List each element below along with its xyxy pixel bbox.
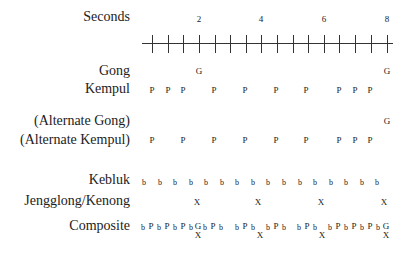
kebluk-stroke-b: b xyxy=(251,178,255,188)
kempul-stroke-P: P xyxy=(165,85,170,95)
composite-stroke: P xyxy=(335,221,340,231)
gong-stroke-G: G xyxy=(196,66,203,76)
axis-tick xyxy=(355,35,356,53)
kebluk-stroke-b: b xyxy=(266,178,270,188)
kempul-stroke-P: P xyxy=(336,85,341,95)
kebluk-stroke-b: b xyxy=(173,178,177,188)
seconds-label: Seconds xyxy=(83,9,130,25)
kempul-stroke-P: P xyxy=(180,85,185,95)
composite-stroke: b xyxy=(313,223,317,233)
alt_kempul-stroke-P: P xyxy=(242,135,247,145)
composite-stroke: b xyxy=(344,223,348,233)
composite-stroke: P xyxy=(351,221,356,231)
alt_kempul-stroke-P: P xyxy=(303,135,308,145)
composite-stroke: b xyxy=(360,223,364,233)
kebluk-stroke-b: b xyxy=(375,178,379,188)
kebluk-stroke-b: b xyxy=(298,178,302,188)
composite-stroke: P xyxy=(367,221,372,231)
kebluk-stroke-b: b xyxy=(142,178,146,188)
axis-tick xyxy=(371,35,372,53)
jengglong-stroke-X: X xyxy=(381,197,388,207)
kempul-stroke-P: P xyxy=(273,85,278,95)
composite-stroke: b xyxy=(157,223,161,233)
axis-tick xyxy=(152,35,153,53)
kebluk-stroke-b: b xyxy=(329,178,333,188)
axis-tick xyxy=(183,35,184,53)
kempul-stroke-P: P xyxy=(211,85,216,95)
kebluk-label: Kebluk xyxy=(89,172,130,188)
composite-label: Composite xyxy=(69,218,130,234)
composite-stroke: X xyxy=(195,230,202,240)
composite-stroke: X xyxy=(257,230,264,240)
seconds-tick-label: 6 xyxy=(322,14,327,24)
kebluk-stroke-b: b xyxy=(158,178,162,188)
composite-stroke: X xyxy=(383,230,390,240)
kempul-stroke-P: P xyxy=(352,85,357,95)
axis-tick xyxy=(387,35,388,53)
composite-stroke: b xyxy=(297,223,301,233)
kebluk-stroke-b: b xyxy=(360,178,364,188)
kempul-stroke-P: P xyxy=(242,85,247,95)
kebluk-stroke-b: b xyxy=(313,178,317,188)
alt_kempul-stroke-P: P xyxy=(149,135,154,145)
axis-tick xyxy=(215,35,216,53)
alt_kempul-stroke-P: P xyxy=(211,135,216,145)
alt_kempul-stroke-P: P xyxy=(273,135,278,145)
alt_gong-stroke-G: G xyxy=(384,116,391,126)
axis-tick xyxy=(277,35,278,53)
axis-tick xyxy=(261,35,262,53)
kempul-stroke-P: P xyxy=(367,85,372,95)
jengglong-label: Jengglong/Kenong xyxy=(24,193,130,209)
axis-tick xyxy=(339,35,340,53)
kebluk-stroke-b: b xyxy=(220,178,224,188)
axis-tick xyxy=(308,35,309,53)
composite-stroke: P xyxy=(304,221,309,231)
composite-stroke: P xyxy=(180,221,185,231)
axis-tick xyxy=(246,35,247,53)
axis-tick xyxy=(230,35,231,53)
composite-stroke: X xyxy=(319,230,326,240)
composite-stroke: b xyxy=(376,223,380,233)
alt-gong-label: (Alternate Gong) xyxy=(34,113,130,129)
composite-stroke: P xyxy=(242,221,247,231)
composite-stroke: P xyxy=(148,221,153,231)
alt_kempul-stroke-P: P xyxy=(352,135,357,145)
kebluk-stroke-b: b xyxy=(235,178,239,188)
composite-stroke: b xyxy=(251,223,255,233)
composite-stroke: b xyxy=(203,223,207,233)
jengglong-stroke-X: X xyxy=(318,197,325,207)
composite-stroke: P xyxy=(210,221,215,231)
composite-stroke: b xyxy=(235,223,239,233)
seconds-tick-label: 4 xyxy=(259,14,264,24)
jengglong-stroke-X: X xyxy=(194,197,201,207)
seconds-tick-label: 2 xyxy=(197,14,202,24)
axis-tick xyxy=(293,35,294,53)
jengglong-stroke-X: X xyxy=(255,197,262,207)
composite-stroke: b xyxy=(141,223,145,233)
alt_kempul-stroke-P: P xyxy=(367,135,372,145)
kebluk-stroke-b: b xyxy=(189,178,193,188)
composite-stroke: b xyxy=(173,223,177,233)
kebluk-stroke-b: b xyxy=(204,178,208,188)
composite-stroke: b xyxy=(189,223,193,233)
composite-stroke: b xyxy=(266,223,270,233)
composite-stroke: P xyxy=(273,221,278,231)
composite-stroke: b xyxy=(328,223,332,233)
composite-stroke: P xyxy=(164,221,169,231)
axis-tick xyxy=(168,35,169,53)
kebluk-stroke-b: b xyxy=(282,178,286,188)
kempul-stroke-P: P xyxy=(303,85,308,95)
composite-stroke: b xyxy=(282,223,286,233)
kebluk-stroke-b: b xyxy=(344,178,348,188)
alt_kempul-stroke-P: P xyxy=(180,135,185,145)
axis-tick xyxy=(324,35,325,53)
gong-stroke-G: G xyxy=(384,66,391,76)
alt-kempul-label: (Alternate Kempul) xyxy=(20,132,130,148)
seconds-tick-label: 8 xyxy=(385,14,390,24)
composite-stroke: b xyxy=(219,223,223,233)
axis-tick xyxy=(199,35,200,53)
gong-label: Gong xyxy=(99,63,130,79)
kempul-label: Kempul xyxy=(85,81,130,97)
alt_kempul-stroke-P: P xyxy=(336,135,341,145)
kempul-stroke-P: P xyxy=(149,85,154,95)
